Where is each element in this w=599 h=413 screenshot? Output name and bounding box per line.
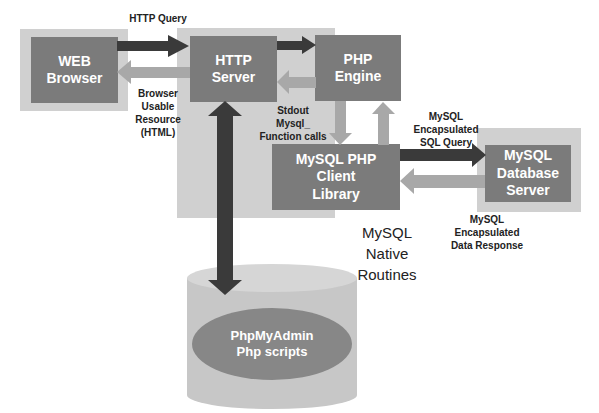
phpmyadmin-node: PhpMyAdmin Php scripts bbox=[212, 322, 332, 366]
sql-query-label: MySQL Encapsulated SQL Query bbox=[410, 110, 482, 149]
data-response-label: MySQL Encapsulated Data Response bbox=[442, 213, 532, 252]
http-query-label: HTTP Query bbox=[118, 12, 198, 25]
arrow-down-icon bbox=[329, 101, 352, 145]
browser-usable-resource-label: Browser Usable Resource (HTML) bbox=[130, 87, 186, 139]
arrow-bidirectional-icon bbox=[208, 101, 242, 295]
arrow-up-icon bbox=[372, 102, 395, 145]
arrow-left-icon bbox=[277, 70, 316, 94]
arrow-left-icon bbox=[400, 168, 485, 194]
stdout-function-calls-label: Stdout Mysql_ Function calls bbox=[254, 104, 332, 143]
arrow-left-icon bbox=[117, 60, 190, 84]
arrow-right-icon bbox=[277, 36, 316, 54]
mysql-native-routines-label: MySQL Native Routines bbox=[352, 222, 422, 285]
arrow-right-icon bbox=[117, 35, 189, 57]
